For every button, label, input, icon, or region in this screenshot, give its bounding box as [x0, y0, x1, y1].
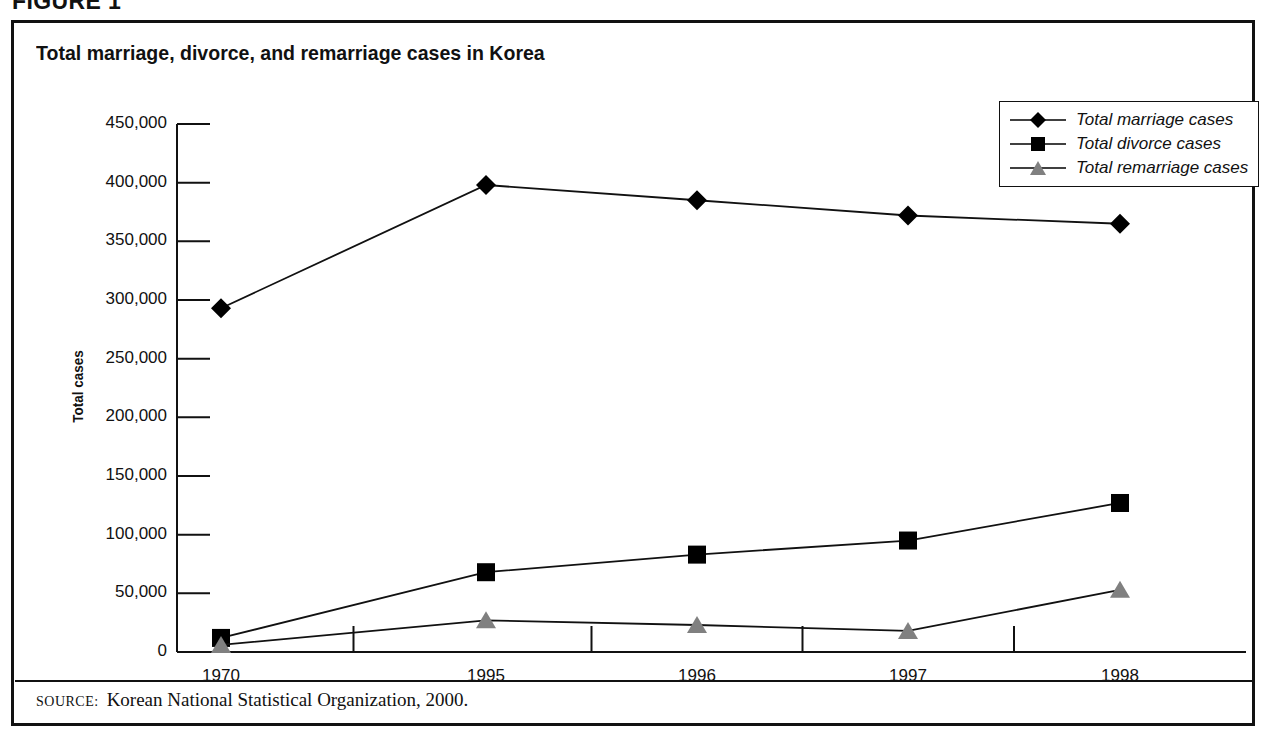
y-axis-tick-label: 350,000 [19, 230, 167, 250]
source-divider [15, 680, 1253, 682]
x-axis-tick-label: 1996 [637, 666, 757, 686]
chart-legend: Total marriage cases Total divorce cases… [999, 101, 1259, 187]
y-axis-tick-label: 400,000 [19, 172, 167, 192]
data-point-marker [211, 298, 231, 318]
data-point-marker [1110, 581, 1130, 598]
data-point-marker [476, 175, 496, 195]
y-axis-tick-label: 0 [19, 641, 167, 661]
legend-item-marriage: Total marriage cases [1008, 108, 1248, 132]
y-axis-tick-label: 100,000 [19, 524, 167, 544]
legend-item-remarriage: Total remarriage cases [1008, 156, 1248, 180]
diamond-marker-icon [1008, 110, 1068, 130]
triangle-marker-icon [1008, 158, 1068, 178]
data-point-marker [688, 546, 706, 564]
y-axis-tick-label: 450,000 [19, 113, 167, 133]
data-point-marker [1110, 214, 1130, 234]
figure-label: FIGURE 1 [12, 0, 121, 14]
x-axis-tick-label: 1997 [848, 666, 968, 686]
x-axis-tick-label: 1970 [161, 666, 281, 686]
source-kicker: SOURCE: [36, 694, 99, 710]
figure-box: Total marriage, divorce, and remarriage … [11, 20, 1255, 726]
y-axis-tick-label: 300,000 [19, 289, 167, 309]
x-axis-tick-label: 1998 [1060, 666, 1180, 686]
square-marker-icon [1008, 134, 1068, 154]
legend-label-remarriage: Total remarriage cases [1076, 158, 1248, 178]
x-axis-tick-label: 1995 [426, 666, 546, 686]
data-point-marker [477, 563, 495, 581]
y-axis-tick-label: 50,000 [19, 582, 167, 602]
legend-item-divorce: Total divorce cases [1008, 132, 1248, 156]
legend-label-divorce: Total divorce cases [1076, 134, 1221, 154]
y-axis-tick-label: 200,000 [19, 406, 167, 426]
data-point-marker [1111, 494, 1129, 512]
data-point-marker [899, 532, 917, 550]
source-line: SOURCE: Korean National Statistical Orga… [36, 689, 468, 711]
source-text: Korean National Statistical Organization… [107, 689, 469, 711]
data-point-marker [898, 206, 918, 226]
y-axis-tick-label: 250,000 [19, 348, 167, 368]
legend-label-marriage: Total marriage cases [1076, 110, 1233, 130]
y-axis-tick-label: 150,000 [19, 465, 167, 485]
data-point-marker [687, 190, 707, 210]
